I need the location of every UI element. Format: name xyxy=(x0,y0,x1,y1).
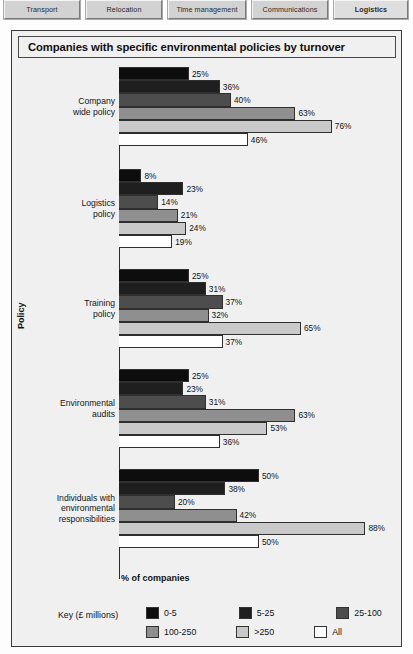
bar-value-label: 88% xyxy=(368,523,385,533)
bar-row: 38% xyxy=(119,482,396,495)
legend-item[interactable]: All xyxy=(314,626,342,638)
bar[interactable] xyxy=(119,169,141,182)
tab-time-management[interactable]: Time management xyxy=(168,0,246,19)
legend-label: 0-5 xyxy=(164,608,177,618)
bar-value-label: 8% xyxy=(144,171,156,181)
bar[interactable] xyxy=(119,495,175,508)
bar[interactable] xyxy=(119,335,223,348)
legend-item[interactable]: >250 xyxy=(236,626,274,638)
bar[interactable] xyxy=(119,435,220,448)
bar[interactable] xyxy=(119,482,225,495)
bar-row: 37% xyxy=(119,295,396,308)
bar-row: 8% xyxy=(119,169,396,182)
bar-row: 14% xyxy=(119,195,396,208)
chart-legend: Key (£ millions) 0-55-2525-100 100-250>2… xyxy=(18,601,396,642)
bar-row: 20% xyxy=(119,495,396,508)
legend-item[interactable]: 25-100 xyxy=(336,607,381,619)
chart-title: Companies with specific environmental po… xyxy=(28,41,345,53)
bar-value-label: 53% xyxy=(270,423,287,433)
bar[interactable] xyxy=(119,93,231,106)
category-label: Logistics policy xyxy=(23,198,115,219)
bar-value-label: 50% xyxy=(262,537,279,547)
tab-logistics[interactable]: Logistics xyxy=(334,0,408,19)
bar-value-label: 32% xyxy=(212,310,229,320)
legend-swatch xyxy=(146,607,159,619)
bar[interactable] xyxy=(119,422,267,435)
bar[interactable] xyxy=(119,235,172,248)
bar[interactable] xyxy=(119,409,295,422)
bar-row: 31% xyxy=(119,282,396,295)
bar[interactable] xyxy=(119,182,183,195)
bar[interactable] xyxy=(119,209,178,222)
bar[interactable] xyxy=(119,133,248,146)
bar[interactable] xyxy=(119,309,209,322)
bar-stack: 25%23%31%63%53%36% xyxy=(119,369,396,448)
bar-value-label: 20% xyxy=(178,497,195,507)
category-label: Company wide policy xyxy=(23,96,115,117)
bar-value-label: 25% xyxy=(192,69,209,79)
bar[interactable] xyxy=(119,535,259,548)
bar[interactable] xyxy=(119,295,223,308)
tab-label: Communications xyxy=(263,5,318,14)
legend-title: Key (£ millions) xyxy=(58,610,118,620)
bar-value-label: 14% xyxy=(161,197,178,207)
bar[interactable] xyxy=(119,369,189,382)
bar-stack: 8%23%14%21%24%19% xyxy=(119,169,396,248)
bar-row: 36% xyxy=(119,80,396,93)
legend-item[interactable]: 5-25 xyxy=(239,607,275,619)
tab-transport[interactable]: Transport xyxy=(4,0,80,19)
bar[interactable] xyxy=(119,382,183,395)
legend-label: >250 xyxy=(254,627,274,637)
bar-value-label: 38% xyxy=(228,484,245,494)
bar-row: 32% xyxy=(119,309,396,322)
screenshot-root: Transport Relocation Time management Com… xyxy=(0,0,413,654)
bar[interactable] xyxy=(119,67,189,80)
bar[interactable] xyxy=(119,107,295,120)
bar-row: 24% xyxy=(119,222,396,235)
bar[interactable] xyxy=(119,509,237,522)
tab-relocation[interactable]: Relocation xyxy=(86,0,162,19)
bar-value-label: 63% xyxy=(298,410,315,420)
bar[interactable] xyxy=(119,522,365,535)
bar-value-label: 42% xyxy=(240,510,257,520)
bar[interactable] xyxy=(119,322,301,335)
legend-label: 25-100 xyxy=(354,608,381,618)
legend-swatch xyxy=(239,607,252,619)
bar-row: 50% xyxy=(119,535,396,548)
bar-row: 36% xyxy=(119,435,396,448)
bar-row: 23% xyxy=(119,382,396,395)
bar-row: 42% xyxy=(119,509,396,522)
legend-item[interactable]: 0-5 xyxy=(146,607,177,619)
bar-value-label: 36% xyxy=(223,437,240,447)
bar-row: 46% xyxy=(119,133,396,146)
bar-value-label: 65% xyxy=(304,323,321,333)
bar[interactable] xyxy=(119,282,206,295)
legend-swatch xyxy=(314,626,327,638)
bar[interactable] xyxy=(119,395,206,408)
bar[interactable] xyxy=(119,469,259,482)
bar-value-label: 23% xyxy=(186,184,203,194)
bar-row: 25% xyxy=(119,269,396,282)
tab-communications[interactable]: Communications xyxy=(252,0,328,19)
bar[interactable] xyxy=(119,195,158,208)
bar[interactable] xyxy=(119,120,332,133)
bar[interactable] xyxy=(119,80,220,93)
legend-swatch xyxy=(146,626,159,638)
bar-row: 25% xyxy=(119,369,396,382)
bar-row: 63% xyxy=(119,107,396,120)
bar-row: 53% xyxy=(119,422,396,435)
bar-value-label: 21% xyxy=(181,210,198,220)
bar-value-label: 36% xyxy=(223,82,240,92)
bar[interactable] xyxy=(119,222,186,235)
bar-row: 65% xyxy=(119,322,396,335)
bar-value-label: 19% xyxy=(175,237,192,247)
bar-value-label: 50% xyxy=(262,471,279,481)
legend-row-top: 0-55-2525-100 xyxy=(146,607,382,619)
bar[interactable] xyxy=(119,269,189,282)
legend-item[interactable]: 100-250 xyxy=(146,626,196,638)
legend-row-bottom: 100-250>250All xyxy=(146,626,342,638)
bar-row: 21% xyxy=(119,209,396,222)
bar-value-label: 25% xyxy=(192,371,209,381)
category-label: Environmental audits xyxy=(23,398,115,419)
bar-row: 23% xyxy=(119,182,396,195)
